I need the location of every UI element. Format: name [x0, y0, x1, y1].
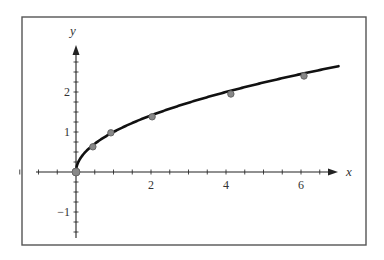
y-axis-label: y — [68, 23, 76, 38]
x-tick-label: 6 — [298, 178, 304, 192]
x-axis-label: x — [345, 164, 352, 179]
data-point — [90, 144, 96, 150]
chart-plot: x y 246−112 — [0, 0, 384, 260]
x-tick-label: 4 — [223, 178, 229, 192]
y-tick-label: −1 — [57, 205, 70, 219]
data-point — [228, 91, 234, 97]
sqrt-curve — [76, 66, 339, 172]
data-point — [108, 130, 114, 136]
x-axis-arrow-icon — [328, 169, 338, 176]
data-points — [72, 73, 307, 176]
y-tick-label: 2 — [64, 85, 70, 99]
chart-frame — [22, 17, 366, 245]
y-tick-label: 1 — [64, 125, 70, 139]
data-point — [72, 168, 80, 176]
data-point — [301, 73, 307, 79]
x-tick-label: 2 — [148, 178, 154, 192]
data-point — [149, 114, 155, 120]
y-axis-arrow-icon — [73, 45, 80, 55]
